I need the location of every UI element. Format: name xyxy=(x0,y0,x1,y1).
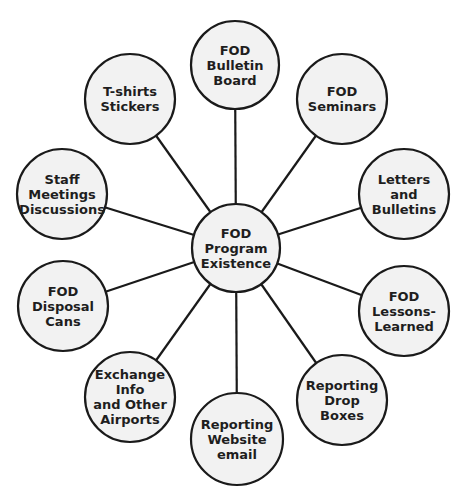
node-reporting-drop-boxes-label: ReportingDropBoxes xyxy=(297,355,387,445)
label-line: Staff xyxy=(19,172,105,187)
label-line: Bulletin xyxy=(207,58,264,73)
label-line: Cans xyxy=(32,314,94,329)
label-line: Bulletins xyxy=(372,202,437,217)
node-disposal-cans-label: FODDisposalCans xyxy=(18,261,108,351)
label-line: Info xyxy=(93,382,167,397)
node-tshirts-stickers-label: T-shirtsStickers xyxy=(85,54,175,144)
label-line: T-shirts xyxy=(100,84,159,99)
label-line: Reporting xyxy=(306,378,379,393)
label-line: Stickers xyxy=(100,99,159,114)
label-line: FOD xyxy=(308,84,376,99)
label-line: Seminars xyxy=(308,99,376,114)
label-line: Lessons- xyxy=(372,304,436,319)
label-line: Airports xyxy=(93,412,167,427)
node-exchange-info-label: ExchangeInfoand OtherAirports xyxy=(85,352,175,442)
node-lessons-learned-label: FODLessons-Learned xyxy=(359,266,449,356)
label-line: FOD xyxy=(207,43,264,58)
label-line: Board xyxy=(207,73,264,88)
label-line: Website xyxy=(201,432,274,447)
node-staff-meetings-label: StaffMeetingsDiscussions xyxy=(17,149,107,239)
label-line: email xyxy=(201,447,274,462)
node-seminars-label: FODSeminars xyxy=(297,54,387,144)
label-line: Learned xyxy=(372,319,436,334)
label-line: Disposal xyxy=(32,299,94,314)
label-line: Letters xyxy=(372,172,437,187)
label-line: Drop xyxy=(306,393,379,408)
label-line: Discussions xyxy=(19,202,105,217)
label-line: FOD xyxy=(201,226,271,241)
label-line: Reporting xyxy=(201,417,274,432)
label-line: Meetings xyxy=(19,187,105,202)
label-line: Existence xyxy=(201,256,271,271)
center-node-label: FODProgramExistence xyxy=(192,204,280,292)
label-line: Boxes xyxy=(306,408,379,423)
label-line: FOD xyxy=(32,284,94,299)
label-line: and xyxy=(372,187,437,202)
node-bulletin-board-label: FODBulletinBoard xyxy=(191,21,279,109)
label-line: Exchange xyxy=(93,367,167,382)
label-line: FOD xyxy=(372,289,436,304)
label-line: Program xyxy=(201,241,271,256)
label-line: and Other xyxy=(93,397,167,412)
node-letters-bulletins-label: LettersandBulletins xyxy=(359,149,449,239)
node-reporting-website-email-label: ReportingWebsiteemail xyxy=(191,393,283,485)
